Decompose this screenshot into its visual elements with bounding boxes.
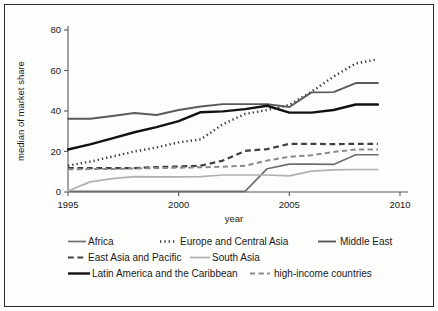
series-line-south-asia [68, 170, 378, 191]
x-tick-label: 1995 [57, 199, 78, 210]
x-axis-title: year [225, 213, 243, 224]
series-group [68, 59, 378, 191]
x-tick-label: 2005 [279, 199, 300, 210]
x-tick-label: 2010 [389, 199, 410, 210]
y-axis-title: median of market share [15, 61, 26, 161]
axis-labels-group: 0204060801995200020052010yearmedian of m… [15, 24, 411, 224]
y-tick-label: 80 [50, 24, 61, 35]
legend-label-latin-america-and-the-caribbean: Latin America and the Caribbean [92, 268, 238, 279]
legend-label-high-income-countries: high-income countries [274, 268, 372, 279]
legend-group: AfricaEurope and Central AsiaMiddle East… [68, 236, 392, 279]
y-tick-label: 40 [50, 105, 61, 116]
legend-label-middle-east: Middle East [340, 236, 392, 247]
legend-label-east-asia-and-pacific: East Asia and Pacific [88, 252, 181, 263]
legend-label-south-asia: South Asia [212, 252, 260, 263]
y-tick-label: 60 [50, 65, 61, 76]
figure-container: 0204060801995200020052010yearmedian of m… [0, 0, 438, 311]
series-line-high-income-countries [68, 149, 378, 169]
chart-canvas: 0204060801995200020052010yearmedian of m… [0, 0, 438, 311]
legend-label-africa: Africa [88, 236, 114, 247]
series-line-middle-east [68, 83, 378, 119]
series-line-latin-america-and-the-caribbean [68, 105, 378, 150]
x-tick-label: 2000 [168, 199, 189, 210]
line-chart-svg: 0204060801995200020052010yearmedian of m… [0, 0, 438, 311]
legend-label-europe-and-central-asia: Europe and Central Asia [180, 236, 289, 247]
y-tick-label: 20 [50, 146, 61, 157]
y-tick-label: 0 [56, 186, 61, 197]
